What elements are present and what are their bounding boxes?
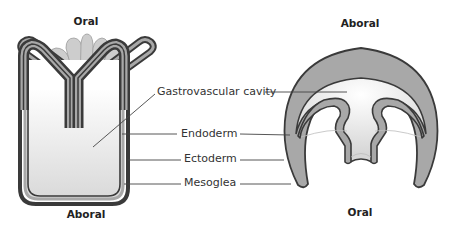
medusa-aboral-label: Aboral: [341, 17, 380, 29]
ectoderm-label: Ectoderm: [184, 152, 237, 165]
leader-endoderm-medusa: [240, 134, 290, 135]
polyp-diagram: [0, 34, 153, 204]
gastrovascular-cavity-label: Gastrovascular cavity: [157, 85, 276, 98]
endoderm-label: Endoderm: [181, 127, 237, 140]
polyp-aboral-label: Aboral: [67, 208, 106, 220]
mesoglea-label: Mesoglea: [184, 176, 236, 189]
cnidarian-body-plans-diagram: [0, 0, 454, 229]
polyp-oral-label: Oral: [74, 15, 99, 27]
medusa-diagram: [285, 48, 438, 187]
medusa-oral-label: Oral: [348, 206, 373, 218]
